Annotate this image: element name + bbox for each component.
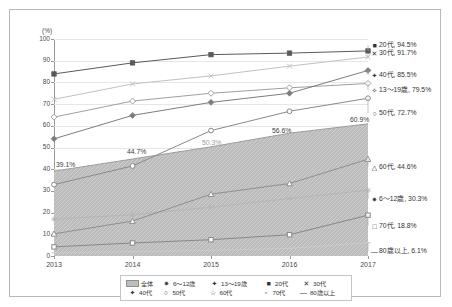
data-point: [366, 213, 370, 217]
x-axis-tick-label: 2017: [343, 261, 393, 268]
legend-item-40代[interactable]: ✦40代: [126, 288, 159, 297]
x-axis-tick-label: 2015: [186, 261, 236, 268]
data-point: [130, 98, 136, 104]
data-point: [52, 182, 57, 187]
data-point: [208, 90, 214, 96]
y-axis-tick-label: 70: [24, 101, 50, 108]
series-label-text: 60代, 44.6%: [379, 163, 417, 170]
data-point: [287, 51, 291, 55]
series-label-marker-icon: ✷: [370, 196, 379, 203]
y-axis-tick-label: 90: [24, 57, 50, 64]
series-label-text: 20代, 94.5%: [379, 41, 417, 48]
legend-item-30代[interactable]: ✕30代: [300, 279, 336, 288]
legend-item-13〜19歳[interactable]: ✦13〜19歳: [208, 279, 262, 288]
legend-item-20代[interactable]: ■20代: [262, 279, 300, 288]
data-point: [51, 136, 57, 142]
series-label-marker-icon: ○: [370, 110, 379, 117]
x-axis-tick-label: 2013: [29, 261, 79, 268]
x-axis-tick-label: 2016: [265, 261, 315, 268]
series-label: △60代, 44.6%: [370, 164, 417, 171]
series-label-marker-icon: ✧: [370, 87, 379, 94]
data-point: [52, 72, 56, 76]
x-axis-tick-mark: [133, 256, 134, 259]
area-value-label: 56.6%: [272, 128, 291, 135]
legend-item-label: 40代: [139, 288, 152, 297]
series-label-text: 13〜19歳, 79.5%: [379, 86, 431, 93]
legend-item-6〜12歳[interactable]: ✷6〜12歳: [160, 279, 208, 288]
legend-item-label: 60代: [220, 288, 233, 297]
data-point: [52, 245, 56, 249]
series-label-marker-icon: △: [370, 164, 379, 171]
x-axis-tick-label: 2014: [108, 261, 158, 268]
y-axis-tick-label: 20: [24, 209, 50, 216]
legend-marker-icon: ○: [159, 289, 172, 296]
legend-item-50代[interactable]: ○50代: [159, 288, 206, 297]
series-label-text: 6〜12歳, 30.3%: [379, 195, 427, 202]
legend-item-60代[interactable]: ☆60代: [207, 288, 260, 297]
legend-row-2: ✦40代○50代☆60代▫70代―80歳以上: [126, 288, 346, 297]
series-label: ✧13〜19歳, 79.5%: [370, 87, 431, 94]
y-axis-tick-label: 60: [24, 122, 50, 129]
legend-marker-icon: ☆: [207, 289, 220, 296]
y-axis-tick-label: 0: [24, 253, 50, 260]
data-point: [209, 238, 213, 242]
series-label-marker-icon: ✦: [370, 72, 379, 79]
data-point: [130, 61, 134, 65]
x-axis-tick-mark: [211, 256, 212, 259]
series-label: □70代, 18.8%: [370, 223, 417, 230]
y-axis-tick-label: 10: [24, 231, 50, 238]
area-value-label: 44.7%: [127, 149, 146, 156]
legend-item-70代[interactable]: ▫70代: [260, 288, 297, 297]
y-axis-tick-label: 50: [24, 144, 50, 151]
data-point: [51, 114, 57, 120]
series-label-marker-icon: □: [370, 223, 379, 230]
x-axis-tick-mark: [290, 256, 291, 259]
series-label-marker-icon: ✕: [370, 50, 379, 57]
legend-item-label: 20代: [275, 279, 288, 288]
data-point: [130, 112, 136, 118]
legend-item-label: 50代: [172, 288, 185, 297]
legend-marker-icon: ✷: [160, 280, 173, 287]
series-label: ✷6〜12歳, 30.3%: [370, 196, 427, 203]
series-label-marker-icon: ―: [370, 248, 379, 255]
series-label-text: 70代, 18.8%: [379, 222, 417, 229]
legend-item-label: 80歳以上: [310, 288, 335, 297]
legend-item-全体[interactable]: 全体: [126, 279, 160, 288]
data-point: [208, 99, 214, 105]
series-label: ○50代, 72.7%: [370, 110, 417, 117]
legend-marker-icon: ✦: [208, 280, 221, 287]
x-axis-tick-mark: [368, 256, 369, 259]
x-axis-tick-mark: [54, 256, 55, 259]
series-label: ✕30代, 91.7%: [370, 50, 417, 57]
legend-marker-icon: ■: [262, 280, 275, 287]
chart-frame: (%) 0102030405060708090100 2013201420152…: [9, 9, 441, 297]
data-point: [209, 128, 214, 133]
legend-marker-icon: ✕: [300, 280, 313, 287]
data-point: [130, 164, 135, 169]
legend-item-label: 70代: [273, 288, 286, 297]
chart-canvas: [54, 39, 368, 256]
legend-marker-icon: ―: [297, 289, 310, 296]
data-point: [366, 96, 371, 101]
legend-area-swatch-icon: [126, 280, 139, 287]
data-point: [287, 233, 291, 237]
area-value-label: 60.9%: [350, 117, 369, 124]
y-axis-tick-label: 80: [24, 79, 50, 86]
legend-marker-icon: ✦: [126, 289, 139, 296]
data-point: [130, 241, 134, 245]
area-value-label: 50.3%: [202, 140, 221, 147]
legend-item-label: 全体: [141, 279, 153, 288]
data-point: [209, 52, 213, 56]
series-label-text: 50代, 72.7%: [379, 109, 417, 116]
series-label-text: 40代, 85.5%: [379, 71, 417, 78]
y-axis-tick-label: 30: [24, 187, 50, 194]
area-value-label: 39.1%: [56, 162, 75, 169]
chart-legend: 全体✷6〜12歳✦13〜19歳■20代✕30代 ✦40代○50代☆60代▫70代…: [120, 275, 352, 301]
legend-item-label: 6〜12歳: [173, 279, 195, 288]
plot-area: 0102030405060708090100 20132014201520162…: [54, 39, 368, 256]
legend-item-label: 13〜19歳: [221, 279, 247, 288]
y-axis-unit-label: (%): [42, 27, 52, 34]
legend-item-80歳以上[interactable]: ―80歳以上: [297, 288, 346, 297]
data-point: [287, 90, 293, 96]
data-point: [365, 80, 371, 86]
